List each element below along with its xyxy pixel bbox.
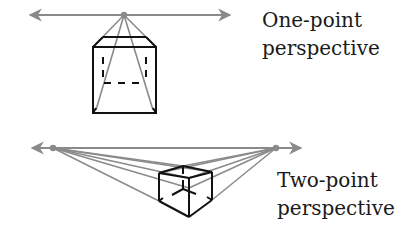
two-point-label-line1: Two-point (277, 166, 395, 194)
cube-one-point (93, 37, 156, 113)
one-point-label-line2: perspective (262, 34, 380, 62)
two-point-label-line2: perspective (277, 194, 395, 222)
cube-two-point (159, 166, 212, 217)
one-point-diagram (30, 12, 230, 113)
two-point-label: Two-point perspective (277, 166, 395, 222)
two-point-diagram (32, 145, 301, 217)
hidden-edge (172, 189, 183, 195)
cube-front-face (93, 47, 156, 113)
one-point-label: One-point perspective (262, 6, 380, 62)
one-point-label-line1: One-point (262, 6, 380, 34)
